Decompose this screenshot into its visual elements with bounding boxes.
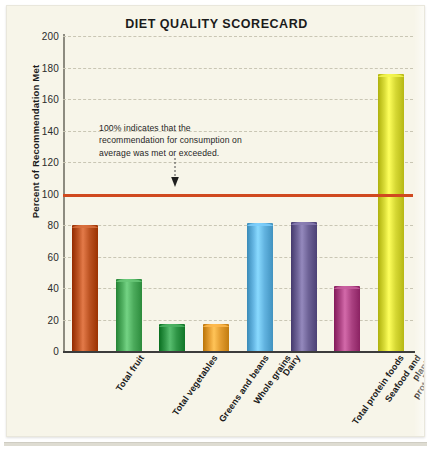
annotation-text: 100% indicates that the recommendation f… bbox=[99, 122, 249, 159]
bar-top-cap bbox=[72, 225, 98, 228]
gridline bbox=[63, 257, 413, 258]
chart-title: DIET QUALITY SCORECARD bbox=[7, 17, 425, 31]
gridline bbox=[63, 99, 413, 100]
bar[interactable] bbox=[291, 222, 317, 351]
chart-card: DIET QUALITY SCORECARD Percent of Recomm… bbox=[6, 5, 425, 437]
bar[interactable] bbox=[247, 223, 273, 351]
y-axis-tick-label: 120 bbox=[17, 157, 59, 168]
x-axis-tick-label: Seafood and plant proteins bbox=[383, 353, 425, 417]
gridline bbox=[63, 68, 413, 69]
y-axis-tick-label: 200 bbox=[17, 31, 59, 42]
page-bottom-rule bbox=[4, 442, 427, 446]
reference-line-100-percent bbox=[63, 194, 413, 197]
gridline bbox=[63, 225, 413, 226]
bar-top-cap bbox=[247, 223, 273, 226]
gridline bbox=[63, 162, 413, 163]
x-axis-tick-label: Total vegetables bbox=[170, 353, 219, 417]
bar[interactable] bbox=[159, 324, 185, 351]
bar[interactable] bbox=[116, 279, 142, 351]
y-axis-tick-label: 40 bbox=[17, 283, 59, 294]
y-axis-tick-label: 0 bbox=[17, 346, 59, 357]
bar[interactable] bbox=[378, 74, 404, 351]
bar-top-cap bbox=[203, 324, 229, 327]
down-arrow-icon bbox=[170, 158, 180, 188]
bar-top-cap bbox=[378, 74, 404, 77]
plot-area bbox=[63, 36, 413, 351]
y-axis-tick-label: 140 bbox=[17, 125, 59, 136]
y-axis-tick-labels: 200180160140120100806040200 bbox=[15, 36, 59, 351]
y-axis-tick-label: 20 bbox=[17, 314, 59, 325]
bar-top-cap bbox=[291, 222, 317, 225]
y-axis-tick-label: 80 bbox=[17, 220, 59, 231]
x-axis-tick-labels: Total fruitTotal vegetablesGreens and be… bbox=[63, 353, 415, 437]
bar[interactable] bbox=[334, 286, 360, 351]
y-axis-tick-label: 160 bbox=[17, 94, 59, 105]
bar-top-cap bbox=[159, 324, 185, 327]
bar-top-cap bbox=[334, 286, 360, 289]
x-axis-tick-label: Total fruit bbox=[114, 353, 147, 393]
bar-top-cap bbox=[116, 279, 142, 282]
y-axis-tick-label: 100 bbox=[17, 188, 59, 199]
bar[interactable] bbox=[72, 225, 98, 351]
gridline bbox=[63, 36, 413, 37]
y-axis-tick-label: 180 bbox=[17, 62, 59, 73]
y-axis-tick-label: 60 bbox=[17, 251, 59, 262]
bar[interactable] bbox=[203, 324, 229, 351]
